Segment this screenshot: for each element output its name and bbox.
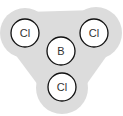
atom-cl-top-left: Cl [11, 19, 39, 47]
atom-cl-bottom: Cl [48, 73, 76, 101]
atom-b-center: B [47, 37, 75, 65]
atom-label: B [57, 45, 64, 57]
bcl3-diagram: Cl Cl B Cl [0, 0, 123, 116]
atom-label: Cl [20, 27, 30, 39]
atom-cl-top-right: Cl [80, 19, 108, 47]
atom-label: Cl [57, 81, 67, 93]
molecule-svg: Cl Cl B Cl [0, 0, 123, 116]
atom-label: Cl [89, 27, 99, 39]
